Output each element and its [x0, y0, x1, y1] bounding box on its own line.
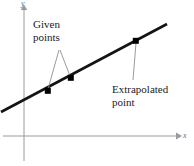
extrapolated-point-marker: [133, 38, 139, 44]
given-points-annotation: Given points: [33, 18, 60, 43]
extrapolated-point-line-2: point: [112, 96, 168, 109]
given-points-line-2: points: [33, 31, 60, 44]
x-axis-label: x: [183, 131, 187, 140]
leader-given-2: [60, 50, 70, 76]
y-axis-label: y: [21, 0, 25, 8]
leader-extrapolated: [133, 43, 136, 80]
extrapolated-point-annotation: Extrapolated point: [112, 83, 168, 108]
x-axis-arrowhead: [176, 133, 182, 140]
given-point-2-marker: [68, 75, 74, 81]
given-point-1-marker: [45, 88, 51, 94]
extrapolated-point-line-1: Extrapolated: [112, 83, 168, 96]
extrapolation-diagram: Given points Extrapolated point y x: [0, 0, 194, 166]
given-points-line-1: Given: [33, 18, 60, 31]
